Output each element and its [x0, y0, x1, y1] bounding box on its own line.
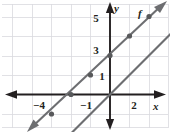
y-tick-label-5: 5 [90, 13, 102, 24]
coordinate-plane-figure: 5 3 1 −4 −1 2 y x f [0, 0, 170, 132]
data-point [68, 92, 73, 97]
x-tick-label-2: 2 [128, 100, 140, 111]
plot-background [0, 0, 170, 132]
y-tick-label-3: 3 [90, 45, 102, 56]
data-point [88, 72, 93, 77]
data-point [127, 33, 132, 38]
y-axis-label: y [114, 3, 119, 14]
x-tick-label-minus-4: −4 [30, 100, 48, 111]
graph-plot-area [0, 0, 170, 132]
data-point [49, 111, 54, 116]
x-axis-label: x [153, 101, 159, 112]
y-tick-label-1: 1 [96, 71, 108, 82]
x-tick-label-minus-1: −1 [77, 100, 95, 111]
data-point [107, 53, 112, 58]
function-label-f: f [138, 8, 142, 19]
data-point [146, 14, 151, 19]
